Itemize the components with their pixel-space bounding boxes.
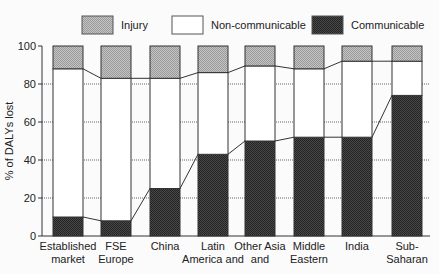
bar-4 — [245, 46, 275, 236]
bar-segment-injury — [53, 46, 83, 69]
bar-7 — [392, 46, 422, 236]
bar-6 — [342, 46, 372, 236]
x-tick-label: MiddleEastern — [290, 240, 328, 265]
legend-swatch — [172, 16, 203, 34]
legend-item-non-communicable: Non-communicable — [172, 16, 306, 34]
legend-label: Non-communicable — [211, 19, 306, 31]
bar-segment-non-communicable — [245, 66, 275, 141]
bar-segment-injury — [198, 46, 228, 73]
bar-segment-injury — [150, 46, 180, 78]
bar-segment-non-communicable — [198, 73, 228, 155]
bar-segment-communicable — [150, 189, 180, 237]
bar-segment-injury — [392, 46, 422, 61]
bar-segment-communicable — [245, 141, 275, 236]
y-tick-label: 60 — [24, 116, 36, 128]
bar-segment-non-communicable — [53, 69, 83, 217]
y-tick-label: 100 — [18, 40, 36, 52]
x-tick-label: Sub-Saharan — [386, 240, 428, 265]
x-tick-label: FSEEurope — [98, 240, 133, 265]
x-axis-labels: EstablishedmarketFSEEuropeChinaLatinAmer… — [40, 240, 428, 265]
legend-swatch — [82, 16, 113, 34]
bar-segment-non-communicable — [101, 78, 131, 221]
bar-segment-communicable — [198, 154, 228, 236]
stacked-bar-chart: InjuryNon-communicableCommunicable 02040… — [0, 0, 439, 274]
bar-segment-injury — [101, 46, 131, 78]
bar-segment-communicable — [53, 217, 83, 236]
bar-segment-communicable — [101, 221, 131, 236]
x-tick-label: India — [345, 240, 370, 252]
bar-segment-non-communicable — [150, 78, 180, 188]
bars — [53, 46, 422, 236]
bar-0 — [53, 46, 83, 236]
bar-segment-non-communicable — [342, 61, 372, 137]
legend-label: Injury — [121, 19, 148, 31]
legend-label: Communicable — [351, 19, 424, 31]
legend-item-communicable: Communicable — [312, 16, 424, 34]
legend-item-injury: Injury — [82, 16, 148, 34]
bar-3 — [198, 46, 228, 236]
bar-segment-communicable — [294, 137, 324, 236]
y-axis-label: % of DALYs lost — [3, 102, 15, 181]
x-tick-label: Establishedmarket — [40, 240, 97, 265]
bar-segment-non-communicable — [392, 61, 422, 95]
bar-segment-injury — [245, 46, 275, 66]
bar-segment-communicable — [342, 137, 372, 236]
legend-swatch — [312, 16, 343, 34]
bar-segment-communicable — [392, 95, 422, 236]
bar-5 — [294, 46, 324, 236]
bar-1 — [101, 46, 131, 236]
bar-2 — [150, 46, 180, 236]
y-tick-label: 0 — [30, 230, 36, 242]
y-tick-label: 40 — [24, 154, 36, 166]
legend: InjuryNon-communicableCommunicable — [82, 16, 424, 34]
x-tick-label: China — [151, 240, 181, 252]
bar-segment-injury — [294, 46, 324, 69]
bar-segment-non-communicable — [294, 69, 324, 137]
y-tick-label: 20 — [24, 192, 36, 204]
bar-segment-injury — [342, 46, 372, 61]
y-tick-label: 80 — [24, 78, 36, 90]
